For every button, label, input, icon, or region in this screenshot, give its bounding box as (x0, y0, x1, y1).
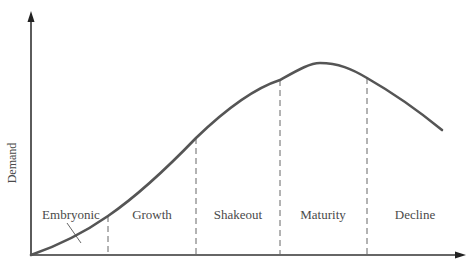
stage-dividers (108, 78, 367, 255)
demand-curve (31, 63, 442, 255)
x-axis-arrow-icon (455, 252, 466, 259)
y-axis-arrow-icon (28, 11, 35, 22)
stage-label-embryonic: Embryonic (42, 207, 100, 222)
stage-label-decline: Decline (395, 207, 436, 222)
stage-label-growth: Growth (132, 207, 172, 222)
stage-label-maturity: Maturity (300, 207, 346, 222)
y-axis-label: Demand (5, 143, 19, 184)
life-cycle-diagram: Demand Embryonic Growth Shakeout Maturit… (0, 0, 473, 267)
stage-label-shakeout: Shakeout (214, 207, 263, 222)
